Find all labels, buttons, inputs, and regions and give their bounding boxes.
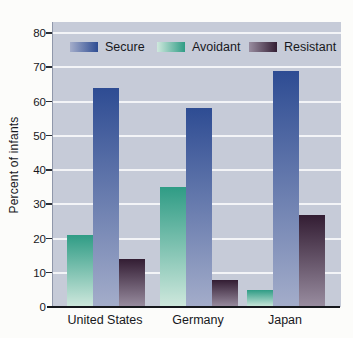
y-tick-mark-80 (46, 32, 52, 34)
bar-germany-secure (186, 108, 212, 307)
resistant-legend-swatch (249, 42, 277, 52)
y-tick-mark-10 (46, 272, 52, 274)
secure-legend-swatch (70, 42, 98, 52)
y-tick-label-60: 60 (26, 96, 46, 108)
y-tick-mark-40 (46, 169, 52, 171)
y-tick-mark-30 (46, 203, 52, 205)
bar-japan-avoidant (247, 290, 273, 307)
y-axis-title: Percent of infants (7, 105, 21, 225)
bar-united-states-secure (93, 88, 119, 307)
y-tick-mark-70 (46, 66, 52, 68)
y-tick-label-0: 0 (26, 301, 46, 313)
y-tick-label-10: 10 (26, 267, 46, 279)
bar-japan-secure (273, 71, 299, 307)
avoidant-legend-swatch (157, 42, 185, 52)
attachment-bar-chart: Percent of infants 01020304050607080 Uni… (0, 0, 353, 338)
y-tick-mark-50 (46, 135, 52, 137)
bar-united-states-avoidant (67, 235, 93, 307)
secure-legend-label: Secure (105, 40, 145, 54)
y-tick-mark-20 (46, 238, 52, 240)
y-tick-label-50: 50 (26, 130, 46, 142)
bar-germany-avoidant (160, 187, 186, 307)
gridline-80 (53, 32, 341, 34)
gridline-70 (53, 66, 341, 68)
resistant-legend-label: Resistant (284, 40, 336, 54)
y-tick-label-80: 80 (26, 27, 46, 39)
plot-area (52, 22, 341, 307)
y-tick-label-70: 70 (26, 61, 46, 73)
bar-japan-resistant (299, 215, 325, 307)
x-category-label-germany: Germany (172, 313, 223, 327)
x-category-label-united-states: United States (67, 313, 142, 327)
bar-germany-resistant (212, 280, 238, 307)
y-tick-label-40: 40 (26, 164, 46, 176)
y-tick-mark-60 (46, 101, 52, 103)
legend-item-secure: Secure (70, 41, 145, 53)
legend-item-resistant: Resistant (249, 41, 336, 53)
x-axis-line (47, 306, 340, 308)
y-tick-label-30: 30 (26, 198, 46, 210)
x-category-label-japan: Japan (268, 313, 302, 327)
avoidant-legend-label: Avoidant (192, 40, 240, 54)
legend-item-avoidant: Avoidant (157, 41, 240, 53)
bar-united-states-resistant (119, 259, 145, 307)
y-tick-label-20: 20 (26, 233, 46, 245)
